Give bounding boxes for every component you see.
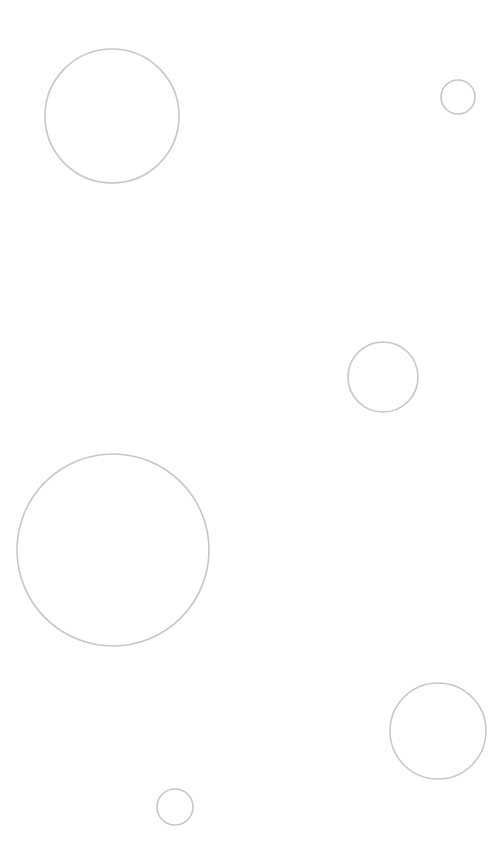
circle-outline — [17, 454, 209, 646]
circle-outline — [390, 683, 486, 779]
circle-outline — [45, 49, 179, 183]
circle-outline — [348, 342, 418, 412]
circle-outline — [157, 789, 193, 825]
circle-layer — [0, 0, 504, 855]
circle-outline — [441, 80, 475, 114]
canvas — [0, 0, 504, 855]
